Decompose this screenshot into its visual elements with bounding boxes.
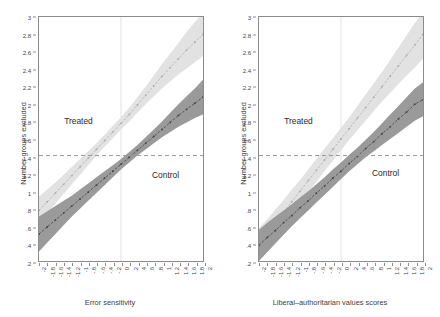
y-tick-mark [33, 175, 36, 176]
data-point-treated [55, 192, 57, 194]
data-point-control [112, 170, 114, 172]
data-point-treated [348, 128, 350, 130]
x-tick-label: 1.6 [411, 267, 417, 275]
y-tick-mark [253, 122, 256, 123]
y-tick-mark [253, 87, 256, 88]
x-tick-mark [139, 263, 140, 266]
y-tick-label: 2.8 [23, 31, 31, 38]
data-point-control [186, 108, 188, 110]
x-tick-mark [408, 263, 409, 266]
x-tick-mark [367, 263, 368, 266]
x-tick-label: .2 [353, 267, 359, 272]
x-tick-label: -.8 [311, 267, 317, 274]
data-point-treated [373, 96, 375, 98]
x-tick-label: .8 [378, 267, 384, 272]
y-tick-mark [33, 192, 36, 193]
data-point-treated [357, 117, 359, 119]
annotation-treated-left: Treated [64, 116, 93, 126]
panel-liberal-authoritarian: .2.4.6.811.21.41.61.822.22.42.62.83 Numb… [220, 0, 440, 317]
data-point-control [324, 185, 326, 187]
y-tick-mark [33, 227, 36, 228]
x-tick-label: -.2 [336, 267, 342, 274]
data-point-treated [381, 86, 383, 88]
y-tick-mark [33, 140, 36, 141]
plot-area-right [258, 16, 424, 262]
x-tick-label: 0 [344, 267, 350, 270]
data-point-control [194, 102, 196, 104]
data-point-control [178, 115, 180, 117]
x-tick-label: -1.6 [58, 267, 64, 277]
x-tick-label: 1.8 [419, 267, 425, 275]
y-tick-mark [33, 104, 36, 105]
y-tick-mark [33, 210, 36, 211]
x-tick-label: 1.2 [174, 267, 180, 275]
x-tick-mark [188, 263, 189, 266]
data-point-control [373, 141, 375, 143]
y-tick-mark [253, 34, 256, 35]
x-tick-label: .4 [361, 267, 367, 272]
data-point-control [87, 191, 89, 193]
x-tick-label: 2 [427, 267, 433, 270]
x-tick-label: -1.2 [75, 267, 81, 277]
data-point-treated [406, 54, 408, 56]
y-tick-mark [253, 245, 256, 246]
x-tick-label: -.6 [320, 267, 326, 274]
x-tick-mark [267, 263, 268, 266]
y-tick-mark [253, 175, 256, 176]
x-tick-mark [309, 263, 310, 266]
x-tick-mark [425, 263, 426, 266]
x-tick-label: -1.4 [66, 267, 72, 277]
data-point-treated [194, 41, 196, 43]
panel-error-sensitivity: .2.4.6.811.21.41.61.822.22.42.62.83 Numb… [0, 0, 220, 317]
y-tick-label: 3 [248, 14, 251, 21]
data-point-treated [120, 122, 122, 124]
y-tick-mark [253, 210, 256, 211]
x-tick-label: .2 [133, 267, 139, 272]
y-tick-label: 1 [28, 189, 31, 196]
x-tick-label: -.2 [116, 267, 122, 274]
data-point-treated [161, 75, 163, 77]
data-point-treated [128, 114, 130, 116]
x-tick-label: -1 [303, 267, 309, 272]
x-tick-mark [197, 263, 198, 266]
y-tick-label: 2 [248, 101, 251, 108]
x-tick-mark [259, 263, 260, 266]
y-tick-label: .6 [246, 224, 251, 231]
y-tick-label: .2 [26, 260, 31, 267]
data-point-control [389, 126, 391, 128]
y-tick-label: 2.6 [243, 49, 251, 56]
data-point-control [169, 122, 171, 124]
data-point-treated [178, 58, 180, 60]
x-tick-label: -.6 [100, 267, 106, 274]
data-point-treated [137, 104, 139, 106]
x-tick-mark [417, 263, 418, 266]
x-tick-label: -1.8 [270, 267, 276, 277]
x-tick-label: 1.4 [183, 267, 189, 275]
data-point-treated [46, 201, 48, 203]
x-tick-label: -1.4 [286, 267, 292, 277]
data-point-control [120, 163, 122, 165]
annotation-control-right: Control [372, 168, 399, 178]
y-tick-mark [253, 227, 256, 228]
x-tick-label: -2 [261, 267, 267, 272]
y-tick-label: .2 [246, 260, 251, 267]
y-tick-label: 1 [248, 189, 251, 196]
x-tick-mark [64, 263, 65, 266]
x-tick-label: .8 [158, 267, 164, 272]
x-tick-mark [122, 263, 123, 266]
x-tick-mark [375, 263, 376, 266]
x-tick-label: 1.4 [403, 267, 409, 275]
x-tick-label: .6 [369, 267, 375, 272]
data-point-control [275, 230, 277, 232]
y-tick-mark [253, 104, 256, 105]
data-point-control [365, 148, 367, 150]
x-tick-mark [89, 263, 90, 266]
y-tick-mark [33, 245, 36, 246]
plot-area-left [38, 16, 204, 262]
data-point-treated [340, 138, 342, 140]
y-axis-title-right: Number groups excluded [239, 69, 248, 219]
data-point-control [332, 177, 334, 179]
data-point-control [161, 129, 163, 131]
data-point-treated [112, 131, 114, 133]
x-tick-mark [147, 263, 148, 266]
